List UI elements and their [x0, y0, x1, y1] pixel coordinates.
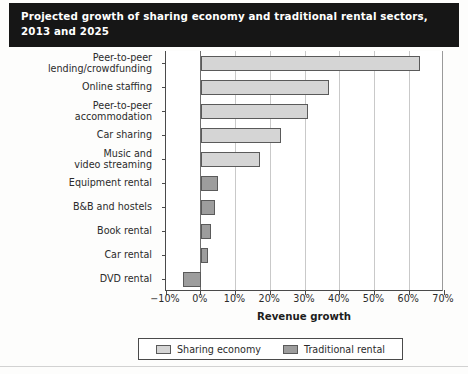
- chart-bar-row: [166, 171, 442, 195]
- y-axis-tick: [162, 207, 166, 208]
- chart-bar-row: [166, 267, 442, 291]
- bar-car-sharing: [201, 128, 281, 143]
- chart-bar-row: [166, 243, 442, 267]
- chart-legend: Sharing economyTraditional rental: [138, 338, 403, 360]
- y-axis-label-dvd-rental: DVD rental: [0, 273, 152, 284]
- y-axis-tick: [162, 87, 166, 88]
- x-tick-label: 40%: [328, 293, 349, 304]
- x-tick-label: 10%: [224, 293, 245, 304]
- bar-car-rental: [201, 248, 208, 263]
- bottom-rule: [0, 366, 468, 367]
- x-axis-title: Revenue growth: [165, 311, 443, 322]
- y-axis-label-line: accommodation: [0, 111, 152, 122]
- legend-swatch-icon: [156, 345, 171, 354]
- chart-bar-row: [166, 99, 442, 123]
- bar-online-staffing: [201, 80, 330, 95]
- x-tick-label: 20%: [259, 293, 280, 304]
- y-axis-label-online-staffing: Online staffing: [0, 81, 152, 92]
- page-title: Projected growth of sharing economy and …: [21, 9, 447, 39]
- y-axis-tick: [162, 63, 166, 64]
- y-axis-label-line: Equipment rental: [0, 177, 152, 188]
- y-axis-label-line: B&B and hostels: [0, 201, 152, 212]
- legend-label: Traditional rental: [304, 344, 385, 355]
- y-axis-tick: [162, 183, 166, 184]
- y-axis-tick: [162, 279, 166, 280]
- y-axis-tick: [162, 255, 166, 256]
- y-axis-tick: [162, 111, 166, 112]
- x-axis-tick-labels: −10%0%10%20%30%40%50%60%70%: [0, 293, 468, 309]
- bar-equipment-rental: [201, 176, 218, 191]
- y-axis-label-car-sharing: Car sharing: [0, 129, 152, 140]
- y-axis-label-line: DVD rental: [0, 273, 152, 284]
- legend-item-sharing[interactable]: Sharing economy: [156, 344, 261, 355]
- bar-dvd-rental: [183, 272, 200, 287]
- y-axis-label-line: Music and: [0, 148, 152, 159]
- x-tick-label: −10%: [150, 293, 179, 304]
- chart-figure: Projected growth of sharing economy and …: [0, 0, 468, 374]
- y-axis-labels: Peer-to-peerlending/crowdfundingOnline s…: [0, 51, 160, 291]
- bar-peer-to-peer-lending-crowdfunding: [201, 56, 420, 71]
- legend-item-traditional[interactable]: Traditional rental: [283, 344, 385, 355]
- chart-bar-row: [166, 51, 442, 75]
- y-axis-label-music-and-video-streaming: Music andvideo streaming: [0, 148, 152, 170]
- chart-bar-row: [166, 195, 442, 219]
- y-axis-label-peer-to-peer-accommodation: Peer-to-peeraccommodation: [0, 100, 152, 122]
- bar-book-rental: [201, 224, 211, 239]
- chart-bar-row: [166, 147, 442, 171]
- y-axis-tick: [162, 231, 166, 232]
- y-axis-label-line: Car rental: [0, 249, 152, 260]
- y-axis-label-line: lending/crowdfunding: [0, 63, 152, 74]
- x-tick-label: 60%: [398, 293, 419, 304]
- bar-music-and-video-streaming: [201, 152, 260, 167]
- x-tick-label: 70%: [432, 293, 453, 304]
- bar-b-b-and-hostels: [201, 200, 215, 215]
- y-axis-label-line: Peer-to-peer: [0, 52, 152, 63]
- chart-bar-row: [166, 219, 442, 243]
- x-tick-label: 30%: [293, 293, 314, 304]
- y-axis-label-line: Car sharing: [0, 129, 152, 140]
- y-axis-tick: [162, 135, 166, 136]
- plot-area: [165, 51, 443, 291]
- y-axis-label-line: Online staffing: [0, 81, 152, 92]
- legend-label: Sharing economy: [177, 344, 261, 355]
- legend-swatch-icon: [283, 345, 298, 354]
- chart-bar-row: [166, 123, 442, 147]
- x-tick-label: 50%: [363, 293, 384, 304]
- y-axis-label-b-b-and-hostels: B&B and hostels: [0, 201, 152, 212]
- y-axis-label-car-rental: Car rental: [0, 249, 152, 260]
- y-axis-label-book-rental: Book rental: [0, 225, 152, 236]
- chart-bar-row: [166, 75, 442, 99]
- y-axis-label-line: Book rental: [0, 225, 152, 236]
- y-axis-label-equipment-rental: Equipment rental: [0, 177, 152, 188]
- bar-peer-to-peer-accommodation: [201, 104, 309, 119]
- y-axis-label-line: Peer-to-peer: [0, 100, 152, 111]
- chart-title-band: Projected growth of sharing economy and …: [9, 3, 459, 47]
- y-axis-tick: [162, 159, 166, 160]
- x-tick-label: 0%: [192, 293, 207, 304]
- y-axis-label-line: video streaming: [0, 159, 152, 170]
- y-axis-label-peer-to-peer-lending-crowdfunding: Peer-to-peerlending/crowdfunding: [0, 52, 152, 74]
